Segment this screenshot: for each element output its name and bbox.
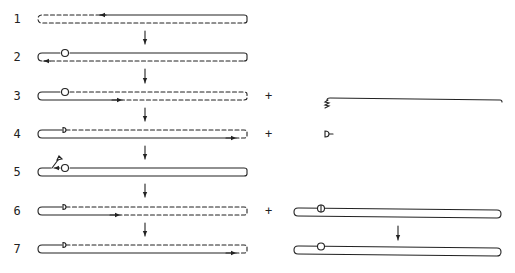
released-tag-stem	[52, 160, 58, 168]
circle-marker-icon	[62, 50, 69, 57]
circle-marker-icon	[62, 165, 69, 172]
circle-marker-icon	[62, 89, 69, 96]
half-circle-marker-icon	[63, 205, 66, 210]
released-tag-icon	[57, 156, 62, 160]
side-loop-row-6	[294, 205, 501, 218]
loop-step-4	[38, 128, 247, 139]
loop-step-7	[38, 243, 247, 254]
half-circle-marker-icon	[63, 128, 66, 133]
loop-step-2	[38, 50, 247, 62]
side-tag-row-4	[325, 131, 333, 137]
half-circle-marker-icon	[63, 243, 66, 248]
diagram-drawing	[0, 0, 515, 273]
side-strand-row-3	[325, 98, 502, 108]
loop-step-1	[38, 15, 247, 23]
loop-step-3	[38, 89, 247, 101]
side-loop-row-7	[294, 243, 501, 256]
loop-step-6	[38, 205, 247, 216]
circle-marker-icon	[318, 243, 325, 250]
diagram: 1 2 3 4 5 6 7 + + +	[0, 0, 515, 273]
loop-step-5	[38, 156, 247, 176]
